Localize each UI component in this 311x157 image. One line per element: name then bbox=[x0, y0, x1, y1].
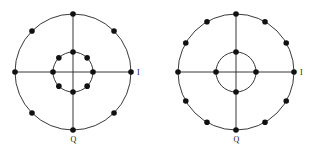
outer-constellation-point bbox=[233, 127, 239, 133]
outer-constellation-point bbox=[128, 69, 134, 75]
constellation-12-4: IQ bbox=[175, 11, 303, 144]
outer-constellation-point bbox=[204, 119, 210, 125]
q-axis-label: Q bbox=[234, 135, 240, 144]
inner-constellation-point bbox=[70, 89, 76, 95]
constellation-diagrams: IQIQ bbox=[0, 0, 311, 157]
inner-constellation-point bbox=[213, 69, 219, 75]
inner-constellation-point bbox=[233, 89, 239, 95]
outer-constellation-point bbox=[111, 110, 117, 116]
inner-constellation-point bbox=[70, 49, 76, 55]
outer-constellation-point bbox=[70, 11, 76, 17]
inner-constellation-point bbox=[84, 83, 90, 89]
inner-constellation-point bbox=[50, 69, 56, 75]
outer-constellation-point bbox=[204, 19, 210, 25]
outer-constellation-point bbox=[70, 127, 76, 133]
inner-constellation-point bbox=[84, 55, 90, 61]
outer-constellation-point bbox=[12, 69, 18, 75]
i-axis-label: I bbox=[300, 68, 303, 77]
outer-constellation-point bbox=[262, 19, 268, 25]
inner-constellation-point bbox=[90, 69, 96, 75]
outer-constellation-point bbox=[29, 110, 35, 116]
outer-constellation-point bbox=[183, 40, 189, 46]
outer-constellation-point bbox=[262, 119, 268, 125]
inner-constellation-point bbox=[253, 69, 259, 75]
outer-constellation-point bbox=[183, 98, 189, 104]
outer-constellation-point bbox=[111, 28, 117, 34]
inner-constellation-point bbox=[56, 83, 62, 89]
constellation-8-8: IQ bbox=[12, 11, 140, 144]
inner-constellation-point bbox=[233, 49, 239, 55]
outer-constellation-point bbox=[233, 11, 239, 17]
i-axis-label: I bbox=[137, 68, 140, 77]
outer-constellation-point bbox=[283, 98, 289, 104]
outer-constellation-point bbox=[283, 40, 289, 46]
outer-constellation-point bbox=[291, 69, 297, 75]
q-axis-label: Q bbox=[71, 135, 77, 144]
inner-constellation-point bbox=[56, 55, 62, 61]
outer-constellation-point bbox=[175, 69, 181, 75]
outer-constellation-point bbox=[29, 28, 35, 34]
